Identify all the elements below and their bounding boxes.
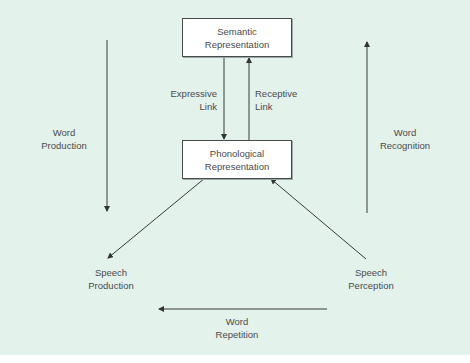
label-line1: Receptive — [255, 87, 315, 100]
label-line1: Speech — [340, 266, 402, 279]
expressive-link-label: Expressive Link — [160, 87, 217, 113]
perception-to-phon-arrow — [271, 179, 366, 259]
word-production-label: Word Production — [34, 126, 94, 152]
label-line1: Speech — [80, 266, 142, 279]
label-line2: Production — [80, 279, 142, 292]
diagram-canvas: Semantic Representation Phonological Rep… — [0, 0, 470, 355]
word-recognition-label: Word Recognition — [372, 126, 438, 152]
node-label-line1: Semantic — [217, 25, 257, 38]
semantic-representation-node: Semantic Representation — [182, 18, 292, 57]
label-line1: Expressive — [160, 87, 217, 100]
label-line2: Production — [34, 139, 94, 152]
label-line2: Link — [160, 100, 217, 113]
speech-perception-node: Speech Perception — [340, 266, 402, 292]
phonological-representation-node: Phonological Representation — [182, 140, 292, 179]
label-line1: Word — [372, 126, 438, 139]
node-label-line1: Phonological — [210, 147, 264, 160]
speech-production-node: Speech Production — [80, 266, 142, 292]
label-line2: Perception — [340, 279, 402, 292]
label-line1: Word — [207, 315, 267, 328]
receptive-link-label: Receptive Link — [255, 87, 315, 113]
phon-to-production-arrow — [108, 178, 205, 258]
label-line2: Link — [255, 100, 315, 113]
node-label-line2: Representation — [205, 160, 269, 173]
word-repetition-label: Word Repetition — [207, 315, 267, 341]
label-line2: Repetition — [207, 328, 267, 341]
label-line1: Word — [34, 126, 94, 139]
node-label-line2: Representation — [205, 38, 269, 51]
label-line2: Recognition — [372, 139, 438, 152]
